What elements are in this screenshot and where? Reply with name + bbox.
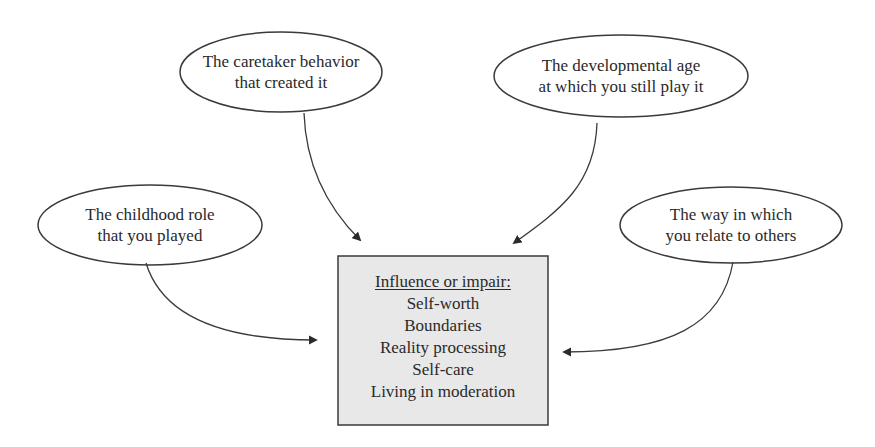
center-box-item-boundaries: Boundaries [338, 315, 548, 337]
node-relate-line1: The way in which [620, 204, 842, 225]
arrow-childhood-to-box [146, 263, 316, 340]
center-box-heading: Influence or impair: [338, 271, 548, 293]
arrow-caretaker-to-box [304, 113, 360, 240]
node-developmental-line1: The developmental age [494, 55, 748, 76]
node-caretaker-line2: that created it [180, 72, 382, 93]
node-caretaker-line1: The caretaker behavior [180, 51, 382, 72]
center-box-content: Influence or impair: Self-worth Boundari… [338, 256, 548, 425]
center-box-item-self-care: Self-care [338, 359, 548, 381]
arrow-relate-to-box [564, 262, 733, 352]
node-childhood-line2: that you played [38, 225, 262, 246]
center-box-item-self-worth: Self-worth [338, 293, 548, 315]
node-caretaker-label: The caretaker behavior that created it [180, 51, 382, 93]
node-childhood-line1: The childhood role [38, 204, 262, 225]
node-relate-line2: you relate to others [620, 225, 842, 246]
node-developmental-label: The developmental age at which you still… [494, 55, 748, 97]
node-developmental-line2: at which you still play it [494, 76, 748, 97]
arrow-developmental-to-box [514, 123, 597, 243]
center-box-item-living-in-moderation: Living in moderation [338, 381, 548, 403]
node-childhood-label: The childhood role that you played [38, 204, 262, 246]
node-relate-label: The way in which you relate to others [620, 204, 842, 246]
center-box-item-reality-processing: Reality processing [338, 337, 548, 359]
